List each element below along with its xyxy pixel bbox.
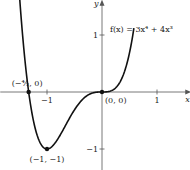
y-tick-label: −1 (86, 145, 98, 154)
key-point-label: (−1, −1) (30, 155, 65, 164)
function-curve (17, 0, 134, 149)
x-axis-label: x (185, 95, 190, 104)
y-tick-label: 1 (93, 31, 98, 40)
chart-stage: x y −111−1 (−⁴⁄₃, 0)(−1, −1)(0, 0) f(x) … (0, 0, 190, 170)
y-axis-label: y (93, 0, 99, 8)
key-point-marker (26, 90, 30, 94)
x-tick-label: −1 (41, 96, 53, 105)
function-graph: x y −111−1 (−⁴⁄₃, 0)(−1, −1)(0, 0) f(x) … (0, 0, 190, 170)
x-axis-arrow-icon (185, 90, 190, 95)
x-tick-label: 1 (154, 96, 159, 105)
y-axis-arrow-icon (100, 0, 105, 6)
key-point-label: (−⁴⁄₃, 0) (12, 79, 43, 88)
key-point-marker (100, 90, 104, 94)
key-point-marker (45, 147, 49, 151)
function-label: f(x) = 3x⁴ + 4x³ (110, 25, 173, 34)
key-point-label: (0, 0) (105, 96, 127, 105)
